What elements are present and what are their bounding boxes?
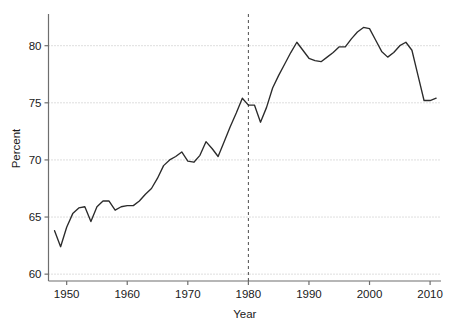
x-tick-label: 2010 [417,288,443,300]
y-tick-label: 65 [29,211,42,223]
data-series-line [55,27,437,246]
x-axis-title: Year [233,308,256,320]
y-tick-label: 80 [29,40,42,52]
y-tick-label: 70 [29,154,42,166]
x-tick-label: 2000 [357,288,383,300]
x-tick-label: 1980 [236,288,262,300]
chart-container: 60657075801950196019701980199020002010Ye… [0,0,459,333]
line-chart: 60657075801950196019701980199020002010Ye… [0,0,459,333]
y-tick-label: 60 [29,268,42,280]
x-tick-label: 1960 [114,288,140,300]
x-tick-label: 1950 [54,288,80,300]
x-tick-label: 1970 [175,288,201,300]
x-tick-label: 1990 [296,288,322,300]
y-tick-label: 75 [29,97,42,109]
y-axis-title: Percent [10,128,22,168]
